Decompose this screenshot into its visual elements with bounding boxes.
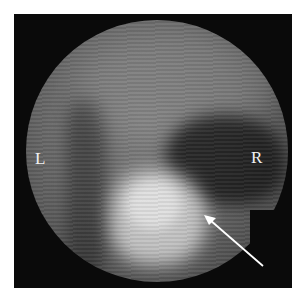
arrow-annotation-icon <box>0 0 305 300</box>
